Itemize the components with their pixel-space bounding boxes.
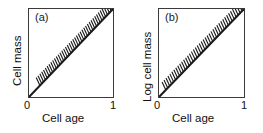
panel-b-xtick-1: 1	[241, 100, 247, 111]
panel-a-x-axis-label: Cell age	[42, 113, 84, 125]
panel-b-x-axis-label: Cell age	[172, 113, 214, 125]
panel-b-label: (b)	[165, 12, 178, 23]
panel-a: (a) Cell mass Cell age 0 1	[0, 0, 131, 133]
figure-container: (a) Cell mass Cell age 0 1 (b) Log cell …	[0, 0, 263, 133]
panel-a-label: (a)	[35, 12, 48, 23]
panel-a-xtick-0: 0	[24, 100, 30, 111]
panel-b: (b) Log cell mass Cell age 0 1	[131, 0, 262, 133]
panel-a-xtick-1: 1	[110, 100, 116, 111]
panel-b-y-axis-label: Log cell mass	[142, 32, 154, 102]
panel-a-y-axis-label: Cell mass	[12, 36, 24, 86]
panel-b-xtick-0: 0	[154, 100, 160, 111]
